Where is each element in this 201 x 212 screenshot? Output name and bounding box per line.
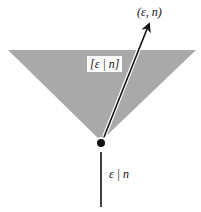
apex-point	[97, 139, 105, 147]
diagram-canvas	[0, 0, 201, 212]
stem-label: ε | n	[109, 168, 129, 180]
arrow-tip-label: (ε, n)	[137, 6, 162, 18]
cone-label: [ε | n]	[87, 56, 122, 72]
